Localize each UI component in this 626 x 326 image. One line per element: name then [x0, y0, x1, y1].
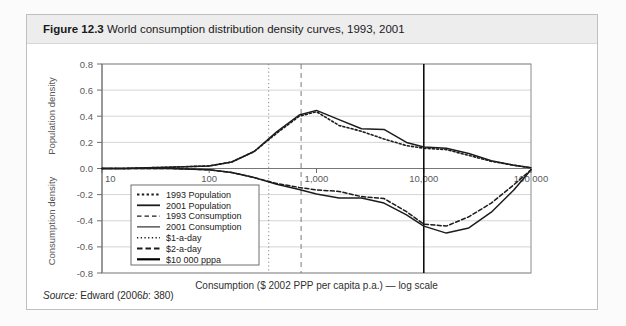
y-tick-label: 0.4 — [80, 111, 93, 122]
source-label: Source: — [43, 290, 77, 301]
y-tick-label: -0.8 — [77, 268, 93, 279]
y-tick-labels: 0.8 0.6 0.4 0.2 0.0 -0.2 -0.4 -0.6 -0.8 — [77, 59, 93, 279]
source-author: Edward (2006 — [80, 290, 142, 301]
y-axis-label-upper: Population density — [46, 77, 57, 155]
x-tick-label: 1,000 — [305, 173, 329, 184]
source-page: : 380) — [148, 290, 174, 301]
x-tick-label: 100 — [201, 173, 217, 184]
y-tick-label: 0.0 — [80, 163, 93, 174]
legend-label-dollar2-a-day: $2-a-day — [166, 244, 202, 254]
legend-label-2001-consumption: 2001 Consumption — [166, 222, 242, 232]
y-tick-label: 0.6 — [80, 85, 93, 96]
y-tick-label: -0.6 — [77, 241, 93, 252]
chart-legend: 1993 Population 2001 Population 1993 Con… — [131, 185, 259, 265]
screenshot-root: Figure 12.3 World consumption distributi… — [0, 0, 626, 326]
figure-panel: Figure 12.3 World consumption distributi… — [26, 14, 598, 310]
density-curves-chart: 0.8 0.6 0.4 0.2 0.0 -0.2 -0.4 -0.6 -0.8 … — [27, 15, 599, 311]
legend-label-10000-pppa: $10 000 pppa — [166, 255, 221, 265]
y-tick-label: -0.2 — [77, 189, 93, 200]
legend-label-1993-population: 1993 Population — [166, 190, 231, 200]
y-axis-label-lower: Consumption density — [46, 176, 57, 265]
legend-label-dollar1-a-day: $1-a-day — [166, 233, 202, 243]
legend-label-2001-population: 2001 Population — [166, 201, 231, 211]
x-tick-label: 10 — [105, 173, 116, 184]
y-tick-label: 0.2 — [80, 137, 93, 148]
y-tick-label: 0.8 — [80, 59, 93, 70]
legend-label-1993-consumption: 1993 Consumption — [166, 211, 242, 221]
y-tick-label: -0.4 — [77, 215, 93, 226]
chart-area: 0.8 0.6 0.4 0.2 0.0 -0.2 -0.4 -0.6 -0.8 … — [27, 15, 599, 311]
source-note: Source: Edward (2006b: 380) — [27, 290, 597, 301]
x-tick-label: 100 000 — [514, 173, 548, 184]
